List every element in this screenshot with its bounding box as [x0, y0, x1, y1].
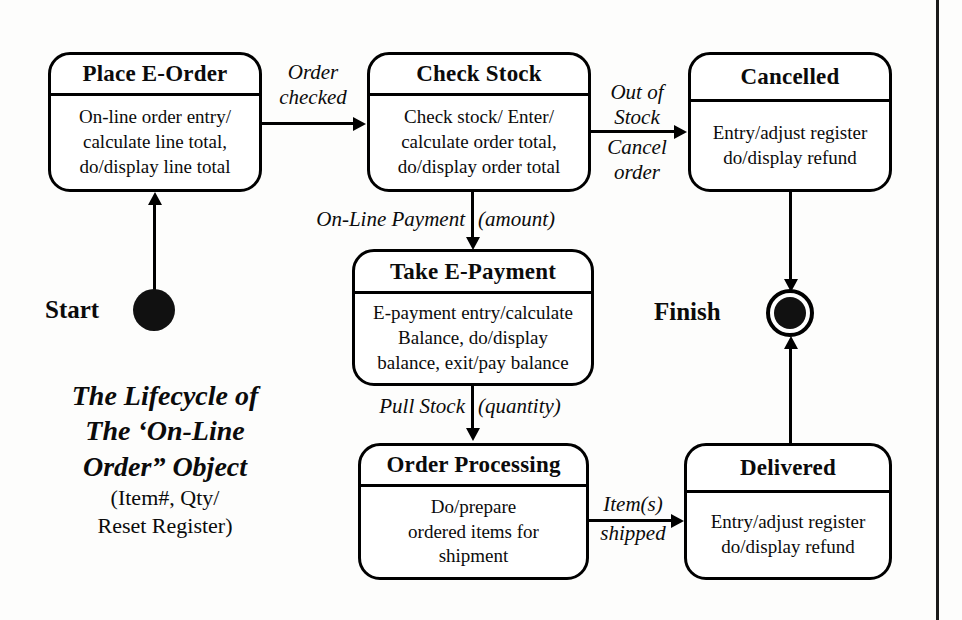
transition-label-line: order: [593, 160, 681, 185]
transition-label-line: Out of: [593, 80, 681, 105]
state-title-take-e-payment: Take E-Payment: [355, 252, 591, 294]
transition-check-to-payment-arrowhead: [466, 237, 480, 250]
transition-check-to-payment-label-right: (amount): [478, 207, 555, 232]
state-body-line: shipment: [439, 544, 509, 569]
transition-label-line: Cancel: [593, 135, 681, 160]
transition-payment-to-processing-arrowhead: [466, 428, 480, 441]
state-delivered[interactable]: Delivered Entry/adjust register do/displ…: [684, 443, 892, 580]
state-title-check-stock: Check Stock: [370, 55, 588, 96]
caption-line-4: (Item#, Qty/: [20, 484, 310, 512]
state-body-line: On-line order entry/: [79, 105, 231, 130]
state-body-cancelled: Entry/adjust register do/display refund: [691, 102, 889, 189]
transition-place-to-check-arrowhead: [353, 117, 366, 131]
state-body-line: Check stock/ Enter/: [404, 105, 554, 130]
transition-label-line: checked: [263, 85, 363, 110]
state-diagram-canvas: Place E-Order On-line order entry/ calcu…: [0, 0, 962, 620]
state-body-place-e-order: On-line order entry/ calculate line tota…: [51, 96, 259, 189]
caption-line-1: The Lifecycle of: [20, 378, 310, 413]
transition-check-to-payment-line: [471, 192, 474, 240]
finish-marker-core: [774, 297, 806, 329]
state-body-line: calculate order total,: [401, 130, 557, 155]
transition-payment-to-processing-label-right: (quantity): [478, 394, 561, 419]
caption-line-5: Reset Register): [20, 512, 310, 540]
transition-cancelled-to-finish-line: [789, 192, 792, 282]
state-body-line: Do/prepare: [431, 495, 516, 520]
state-body-line: E-payment entry/calculate: [373, 301, 573, 326]
state-body-line: do/display order total: [398, 155, 561, 180]
state-body-order-processing: Do/prepare ordered items for shipment: [361, 487, 586, 577]
caption-line-3: Order” Object: [20, 449, 310, 484]
transition-start-to-place-arrowhead: [148, 192, 162, 205]
state-order-processing[interactable]: Order Processing Do/prepare ordered item…: [358, 443, 589, 580]
transition-processing-to-delivered-label-below: shipped: [592, 521, 674, 546]
transition-check-to-payment-label-left: On-Line Payment: [271, 207, 465, 232]
state-body-line: Balance, do/display: [398, 326, 548, 351]
state-title-place-e-order: Place E-Order: [51, 55, 259, 96]
state-title-order-processing: Order Processing: [361, 446, 586, 487]
state-body-line: do/display refund: [723, 146, 857, 171]
state-body-line: Entry/adjust register: [711, 510, 866, 535]
state-place-e-order[interactable]: Place E-Order On-line order entry/ calcu…: [48, 52, 262, 192]
start-marker-dot: [133, 289, 175, 331]
state-check-stock[interactable]: Check Stock Check stock/ Enter/ calculat…: [367, 52, 591, 192]
diagram-caption: The Lifecycle of The ‘On-Line Order” Obj…: [20, 378, 310, 539]
finish-marker-label: Finish: [654, 298, 721, 326]
state-take-e-payment[interactable]: Take E-Payment E-payment entry/calculate…: [352, 249, 594, 386]
state-title-delivered: Delivered: [687, 446, 889, 493]
transition-label-line: Stock: [593, 105, 681, 130]
transition-processing-to-delivered-label-above: Item(s): [592, 492, 674, 517]
state-body-take-e-payment: E-payment entry/calculate Balance, do/di…: [355, 294, 591, 383]
transition-payment-to-processing-line: [471, 386, 474, 430]
transition-check-to-cancelled-label-below: Cancel order: [593, 135, 681, 185]
state-body-line: calculate line total,: [83, 130, 227, 155]
transition-place-to-check-label: Order checked: [263, 60, 363, 110]
transition-delivered-to-finish-line: [789, 345, 792, 443]
start-marker-label: Start: [45, 296, 99, 324]
state-body-line: balance, exit/pay balance: [377, 351, 568, 376]
transition-place-to-check-line: [262, 122, 354, 125]
transition-payment-to-processing-label-left: Pull Stock: [295, 394, 465, 419]
state-body-check-stock: Check stock/ Enter/ calculate order tota…: [370, 96, 588, 189]
transition-label-line: Order: [263, 60, 363, 85]
state-body-delivered: Entry/adjust register do/display refund: [687, 493, 889, 577]
transition-check-to-cancelled-line: [591, 130, 676, 133]
state-body-line: do/display refund: [721, 535, 855, 560]
caption-line-2: The ‘On-Line: [20, 413, 310, 448]
state-cancelled[interactable]: Cancelled Entry/adjust register do/displ…: [688, 52, 892, 192]
transition-check-to-cancelled-label-above: Out of Stock: [593, 80, 681, 130]
page-border-line: [936, 0, 939, 620]
state-body-line: Entry/adjust register: [713, 121, 868, 146]
state-body-line: ordered items for: [408, 520, 539, 545]
transition-delivered-to-finish-arrowhead: [784, 336, 798, 349]
state-title-cancelled: Cancelled: [691, 55, 889, 102]
state-body-line: do/display line total: [80, 155, 231, 180]
